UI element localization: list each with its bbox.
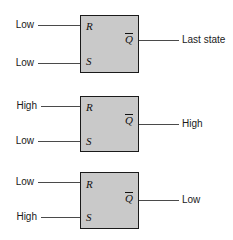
wire-r-input-3 (38, 182, 80, 183)
pin-label-qbar-3: Q (125, 192, 133, 204)
qbar-glyph-2: Q (125, 114, 133, 126)
latch-block-2: R S Q (80, 96, 139, 152)
label-r-input-2: High (0, 101, 37, 111)
latch-block-3: R S Q (80, 172, 139, 229)
wire-qbar-output-3 (139, 200, 179, 201)
sr-latch-diagram: R S Q Low Low Last state R S Q High Low … (0, 0, 233, 240)
label-qbar-output-3: Low (182, 195, 200, 205)
pin-label-s-3: S (86, 212, 92, 223)
wire-s-input-3 (41, 217, 80, 218)
label-s-input-3: High (0, 212, 37, 222)
pin-label-r-1: R (86, 21, 93, 32)
qbar-glyph-1: Q (125, 33, 133, 45)
latch-block-1: R S Q (80, 15, 139, 73)
wire-r-input-2 (41, 106, 80, 107)
pin-label-r-2: R (86, 102, 93, 113)
label-qbar-output-2: High (182, 119, 203, 129)
wire-s-input-2 (38, 141, 80, 142)
pin-label-s-1: S (86, 56, 92, 67)
pin-label-r-3: R (86, 179, 93, 190)
wire-r-input-1 (38, 25, 80, 26)
label-s-input-1: Low (0, 58, 34, 68)
wire-qbar-output-1 (139, 40, 179, 41)
qbar-glyph-3: Q (125, 192, 133, 204)
wire-qbar-output-2 (139, 124, 179, 125)
label-qbar-output-1: Last state (182, 35, 225, 45)
pin-label-s-2: S (86, 136, 92, 147)
label-r-input-3: Low (0, 177, 34, 187)
label-r-input-1: Low (0, 20, 34, 30)
pin-label-qbar-1: Q (125, 33, 133, 45)
label-s-input-2: Low (0, 136, 34, 146)
wire-s-input-1 (38, 63, 80, 64)
pin-label-qbar-2: Q (125, 114, 133, 126)
